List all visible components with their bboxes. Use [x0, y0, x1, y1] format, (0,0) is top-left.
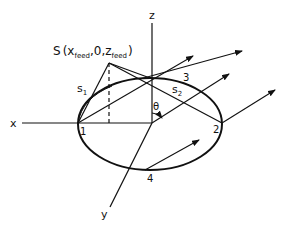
s2-label: s2: [172, 83, 182, 98]
wave-arrow-3: [140, 51, 242, 79]
ray-to-3: [109, 63, 150, 78]
wave-arrow-mid: [152, 74, 229, 123]
wave-arrow-2: [222, 90, 275, 123]
wave-arrow-4: [145, 140, 199, 170]
theta-label: θ: [153, 101, 159, 112]
point-2-label: 2: [213, 124, 219, 135]
source-label: S(xfeed,0,zfeed): [53, 44, 133, 60]
point-1-label: 1: [80, 126, 86, 137]
z-axis-label: z: [149, 9, 155, 22]
point-4-label: 4: [147, 173, 153, 184]
s1-label: s1: [77, 82, 87, 97]
y-axis-label: y: [101, 208, 108, 221]
x-axis-label: x: [10, 117, 17, 130]
point-3-label: 3: [183, 72, 189, 83]
aperture-geometry-diagram: x z y S(xfeed,0,zfeed) s1 s2 θ 1 2 3 4: [0, 0, 287, 229]
